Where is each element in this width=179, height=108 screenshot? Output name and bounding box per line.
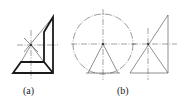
panel-a-diagonal-construction [24,17,53,52]
panel-a-label: (a) [23,85,34,96]
panel-b-triangle-center [147,43,149,45]
panel-a-center-point [30,44,32,46]
panel-a-drawing [13,17,58,80]
panel-b-circle-drawing [71,9,136,80]
panel-a-ray-left [21,45,31,62]
panel-b-triangle-drawing [130,15,177,80]
panel-b-label: (b) [117,85,129,96]
panel-b-circle-triangle [88,44,118,73]
panel-a-ray-right [31,45,44,62]
panel-b-triangle-ray [148,44,168,73]
panel-b-circle-center [102,43,104,45]
